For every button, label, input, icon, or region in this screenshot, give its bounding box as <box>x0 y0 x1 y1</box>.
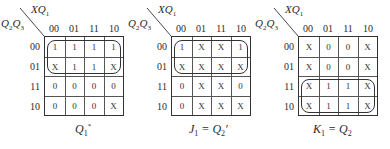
row-variable-label: Q2Q3 <box>255 17 278 32</box>
kmap-cell: 0 <box>84 76 104 96</box>
row-label: 11 <box>151 81 167 92</box>
kmap-cell: X <box>358 37 378 57</box>
row-label: 01 <box>24 61 40 72</box>
kmap-cell: X <box>299 37 319 57</box>
row-label: 01 <box>278 61 294 72</box>
kmap-cell: X <box>211 76 231 96</box>
column-label: 00 <box>171 23 191 34</box>
grouping-loop <box>47 40 121 74</box>
kmap-cell: X <box>358 57 378 77</box>
grouping-loop <box>301 79 375 113</box>
map-caption: Q1* <box>75 122 91 138</box>
column-label: 00 <box>298 23 318 34</box>
row-variable-label: Q2Q3 <box>1 17 24 32</box>
kmap-grid: 1111X11X0000000X <box>44 36 124 116</box>
kmap-k1: XQ1Q2Q30001111000011110X00XX00XX11XX11XK… <box>268 0 390 149</box>
map-caption: J1 = Q2′ <box>189 122 228 138</box>
row-label: 11 <box>24 81 40 92</box>
column-label: 01 <box>64 23 84 34</box>
kmap-cell: 0 <box>231 76 251 96</box>
kmap-cell: 0 <box>338 37 358 57</box>
kmap-cell: X <box>104 96 124 116</box>
kmap-cell: X <box>299 57 319 77</box>
row-label: 00 <box>278 41 294 52</box>
kmap-cell: 0 <box>84 96 104 116</box>
kmap-cell: X <box>192 76 212 96</box>
kmap-grid: X00XX00XX11XX11X <box>298 36 378 116</box>
kmap-cell: 0 <box>338 57 358 77</box>
column-label: 10 <box>231 23 251 34</box>
kmap-cell: 0 <box>172 96 192 116</box>
kmap-cell: 0 <box>104 76 124 96</box>
kmap-cell: 0 <box>319 57 339 77</box>
column-label: 10 <box>358 23 378 34</box>
row-label: 00 <box>24 41 40 52</box>
row-label: 10 <box>151 101 167 112</box>
kmap-cell: 0 <box>319 37 339 57</box>
column-label: 01 <box>318 23 338 34</box>
column-variable-label: XQ1 <box>285 3 303 18</box>
kmap-cell: X <box>192 96 212 116</box>
column-variable-label: XQ1 <box>158 3 176 18</box>
kmap-cell: X <box>231 96 251 116</box>
column-label: 11 <box>211 23 231 34</box>
kmap-cell: 0 <box>45 76 65 96</box>
column-label: 11 <box>84 23 104 34</box>
kmap-cell: 0 <box>172 76 192 96</box>
grouping-loop <box>174 40 248 74</box>
column-label: 00 <box>44 23 64 34</box>
column-variable-label: XQ1 <box>31 3 49 18</box>
column-label: 01 <box>191 23 211 34</box>
kmap-cell: 0 <box>65 76 85 96</box>
kmap-cell: X <box>211 96 231 116</box>
kmap-grid: 1XX1XXXX0XX00XXX <box>171 36 251 116</box>
column-label: 11 <box>338 23 358 34</box>
kmap-cell: 0 <box>65 96 85 116</box>
row-label: 10 <box>278 101 294 112</box>
row-label: 10 <box>24 101 40 112</box>
row-variable-label: Q2Q3 <box>128 17 151 32</box>
row-label: 11 <box>278 81 294 92</box>
column-label: 10 <box>104 23 124 34</box>
kmap-j1: XQ1Q2Q300011110000111101XX1XXXX0XX00XXXJ… <box>141 0 271 149</box>
row-label: 01 <box>151 61 167 72</box>
row-label: 00 <box>151 41 167 52</box>
map-caption: K1 = Q2 <box>313 122 352 138</box>
kmap-cell: 0 <box>45 96 65 116</box>
kmap-q1-next: XQ1Q2Q300011110000111101111X11X0000000XQ… <box>14 0 144 149</box>
